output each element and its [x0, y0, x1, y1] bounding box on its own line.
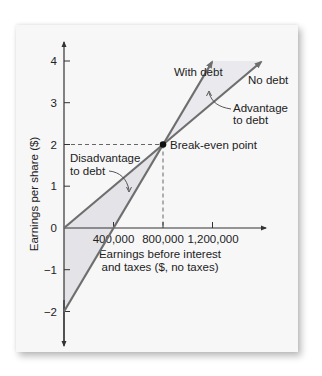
y-tick-label: 0 [51, 222, 57, 234]
x-axis-title-line1: Earnings before interest [99, 248, 222, 260]
y-tick-label: 4 [51, 55, 58, 67]
y-tick-label: 1 [51, 180, 57, 192]
no-debt-label: No debt [248, 74, 289, 86]
with-debt-line [64, 62, 212, 312]
with-debt-label: With debt [174, 66, 223, 78]
x-tick-label: 800,000 [142, 233, 184, 245]
x-tick-label: 400,000 [93, 233, 135, 245]
x-tick-label: 1,200,000 [187, 233, 238, 245]
advantage-label-line2: to debt [233, 114, 269, 126]
x-axis-title-line2: and taxes ($, no taxes) [102, 261, 219, 273]
break-even-point [160, 141, 167, 148]
y-tick-label: −2 [44, 306, 57, 318]
advantage-label-line1: Advantage [233, 102, 288, 114]
y-axis-title: Earnings per share ($) [28, 137, 40, 252]
disadvantage-label-line1: Disadvantage [70, 152, 140, 164]
chart-svg: 4 3 2 1 0 −1 −2 400,000 800,000 1,200,00… [0, 0, 322, 376]
break-even-label: Break-even point [170, 139, 258, 151]
y-tick-label: 3 [51, 97, 57, 109]
y-tick-label: 2 [51, 139, 57, 151]
y-tick-labels: 4 3 2 1 0 −1 −2 [44, 55, 58, 318]
x-ticks [114, 222, 213, 228]
x-tick-labels: 400,000 800,000 1,200,000 [93, 233, 239, 245]
disadvantage-label-line2: to debt [70, 165, 106, 177]
y-tick-label: −1 [44, 264, 57, 276]
